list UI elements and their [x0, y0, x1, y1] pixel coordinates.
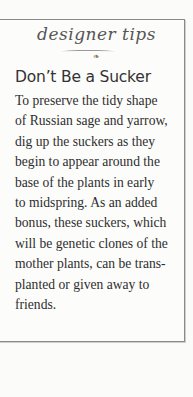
body-line: base of the plants in early	[15, 173, 185, 193]
body-line: will be genetic clones of the	[15, 234, 185, 254]
body-line: To preserve the tidy shape	[15, 91, 185, 111]
body-line: planted or given away to	[15, 275, 185, 295]
body-line: bonus, these suckers, which	[15, 213, 185, 233]
body-line: of Russian sage and yarrow,	[15, 111, 185, 131]
body-line: mother plants, can be trans-	[15, 254, 185, 274]
body-line: to midspring. As an added	[15, 193, 185, 213]
body-line: begin to appear around the	[15, 152, 185, 172]
tip-title: Don’t Be a Sucker	[15, 68, 151, 86]
designer-tips-banner: designer tips	[0, 24, 193, 44]
floral-ornament-icon: ❧	[0, 52, 193, 61]
body-line: friends.	[15, 295, 185, 315]
body-line: dig up the suckers as they	[15, 132, 185, 152]
tip-body: To preserve the tidy shape of Russian sa…	[15, 91, 185, 315]
